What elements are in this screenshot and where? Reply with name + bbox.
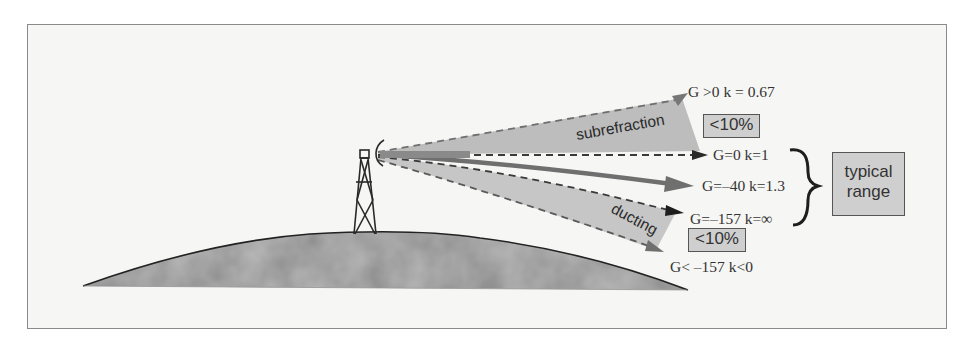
beam-trunk [380,151,470,158]
subrefraction-region: subrefraction [378,93,708,160]
ducting-percent-badge: <10% [688,228,746,252]
subrefraction-percent-badge: <10% [703,114,760,138]
typical-range-box: typical range [832,152,905,216]
ray-label-subrefraction: G >0 k = 0.67 [688,84,775,100]
ray-label-superrefraction: G=–157 k=∞ [690,211,772,227]
brace-icon [790,150,818,225]
ray-label-ducting: G< –157 k<0 [670,259,753,275]
typical-range-line1: typical [833,162,904,182]
ray-label-standard: G=–40 k=1.3 [702,178,785,194]
diagram-graphics: subrefraction ducting [0,0,956,343]
lattice-tower-icon [354,150,376,234]
refraction-diagram: subrefraction ducting [0,0,956,343]
arrowhead-g0 [692,150,708,160]
typical-range-line2: range [833,182,904,202]
arrowhead-g-157 [665,205,684,216]
terrain-hill [83,232,688,290]
ray-label-normal: G=0 k=1 [713,147,769,163]
